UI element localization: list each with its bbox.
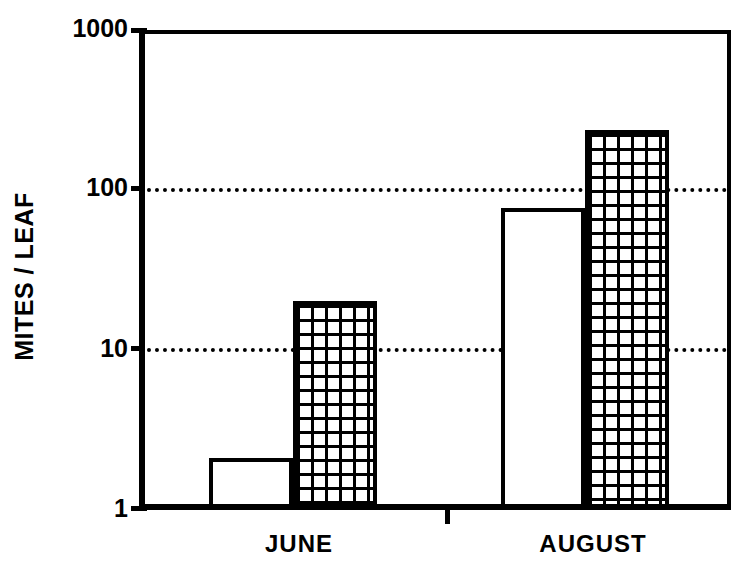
log-bar-chart: MITES / LEAF 1000 100 10 1 JUNE AUGUST: [0, 0, 751, 577]
bar-june-open: [209, 458, 293, 508]
x-label-august: AUGUST: [503, 530, 683, 558]
bar-june-hatched: [293, 301, 377, 508]
y-axis-title: MITES / LEAF: [10, 167, 39, 387]
plot-inner: [145, 34, 727, 508]
x-label-june: JUNE: [219, 530, 379, 558]
y-tick-label-1000: 1000: [72, 16, 128, 41]
y-tick-label-100: 100: [86, 175, 128, 200]
y-tick-label-1: 1: [114, 496, 128, 521]
bar-august-hatched: [585, 130, 669, 508]
bar-august-open: [501, 208, 585, 508]
x-axis-group-separator-tick: [445, 508, 450, 524]
y-tick-label-10: 10: [100, 336, 128, 361]
